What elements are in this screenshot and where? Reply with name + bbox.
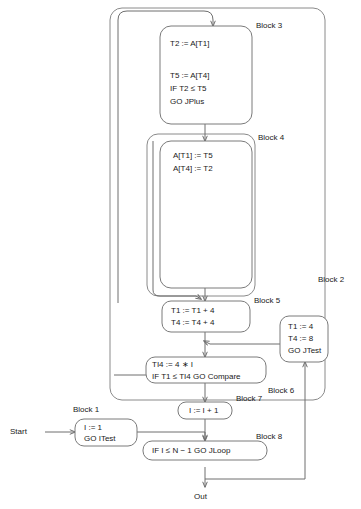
label-block4: Block 4 [258, 133, 285, 142]
node-block4[interactable]: A[T1] := T5 A[T4] := T2 [160, 141, 252, 288]
block1-line-0: I := 1 [84, 423, 103, 432]
flowchart-canvas: T2 := A[T1] T5 := A[T4] IF T2 ≤ T5 GO JP… [0, 0, 361, 509]
jtest-line-2: GO JTest [288, 346, 322, 355]
node-block5[interactable]: T1 := T1 + 4 T4 := T4 + 4 [162, 301, 250, 332]
block5-line-1: T4 := T4 + 4 [171, 318, 215, 327]
node-block8[interactable]: IF I ≤ N − 1 GO JLoop [143, 441, 267, 460]
flowchart-svg: T2 := A[T1] T5 := A[T4] IF T2 ≤ T5 GO JP… [0, 0, 361, 509]
block3-line-2: T5 := A[T4] [170, 71, 209, 80]
block4-shape [160, 141, 252, 288]
jtest-line-0: T1 := 4 [288, 322, 314, 331]
block3-line-4: GO JPlus [170, 97, 204, 106]
block6-line-0: TI4 := 4 ∗ I [152, 360, 193, 369]
terminal-start: Start [10, 427, 28, 436]
block4-line-1: A[T4] := T2 [173, 164, 213, 173]
label-block8: Block 8 [256, 432, 283, 441]
label-block6: Block 6 [268, 386, 295, 395]
block1-line-1: GO ITest [84, 434, 116, 443]
edge-jtest-to-junction [204, 341, 280, 344]
label-block5: Block 5 [254, 296, 281, 305]
label-block3: Block 3 [256, 21, 283, 30]
block7-line-0: I := I + 1 [189, 406, 219, 415]
label-block7: Block 7 [236, 394, 263, 403]
terminal-out: Out [194, 492, 208, 501]
node-block3[interactable]: T2 := A[T1] T5 := A[T4] IF T2 ≤ T5 GO JP… [160, 26, 252, 124]
label-block2: Block 2 [318, 275, 345, 284]
node-jtest[interactable]: T1 := 4 T4 := 8 GO JTest [280, 316, 328, 362]
block4-line-0: A[T1] := T5 [173, 151, 213, 160]
node-block1[interactable]: I := 1 GO ITest [75, 419, 137, 446]
jtest-line-1: T4 := 8 [288, 334, 314, 343]
node-block6[interactable]: TI4 := 4 ∗ I IF T1 ≤ TI4 GO Compare [146, 357, 266, 383]
node-block7[interactable]: I := I + 1 [178, 402, 232, 419]
block8-line-0: IF I ≤ N − 1 GO JLoop [152, 446, 231, 455]
block3-line-0: T2 := A[T1] [170, 39, 209, 48]
block3-line-3: IF T2 ≤ T5 [170, 84, 207, 93]
label-block1: Block 1 [73, 405, 100, 414]
block5-line-0: T1 := T1 + 4 [171, 306, 215, 315]
block6-line-1: IF T1 ≤ TI4 GO Compare [152, 372, 241, 381]
edge-block1-to-block8 [137, 432, 205, 440]
